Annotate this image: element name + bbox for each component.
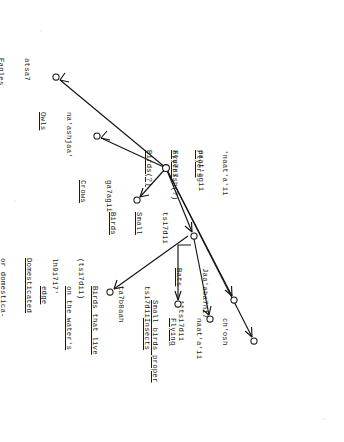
- paper-speck: [322, 418, 325, 420]
- domesticated-term-2: lh9i7i7': [50, 258, 59, 327]
- paper-speck: [40, 30, 42, 32]
- node-domesticated-birds[interactable]: (tsi7dii) lh9i7i7' Domesticated or domes…: [0, 258, 102, 327]
- diagram-stage: 'naat'a'ii Flyers naat'agii Flyers aya7a…: [0, 0, 344, 442]
- small-birds-gloss-1: Small: [134, 212, 143, 244]
- root-gloss-3: Birds(?): [144, 150, 153, 200]
- waters-edge-term-1: tsi7dii: [142, 286, 151, 355]
- node-small-birds[interactable]: tsi7dii Small Birds: [91, 212, 186, 244]
- root-term-2: naat'agii: [196, 150, 205, 191]
- domesticated-gloss-1: Domesticated: [25, 258, 34, 327]
- owls-term: na'ashjaa': [64, 112, 73, 158]
- node-crows[interactable]: ga7agii Crows: [61, 180, 130, 212]
- small-birds-gloss-2: Birds: [109, 212, 118, 244]
- eagles-gloss: Eagles: [0, 58, 5, 86]
- node-owls[interactable]: na'ashjaa' Owls: [21, 112, 90, 158]
- waters-edge-term-2: ta7b8aah: [116, 286, 125, 355]
- node-eagles[interactable]: atsa7 Eagles: [0, 58, 48, 86]
- eagles-term: atsa7: [22, 58, 31, 86]
- node-root-birds-alt2[interactable]: aya7a7sh(?) Birds(?): [127, 150, 196, 200]
- root-term-3: aya7a7sh(?): [170, 150, 179, 200]
- crows-gloss: Crows: [78, 180, 87, 212]
- diagram-canvas: 'naat'a'ii Flyers naat'agii Flyers aya7a…: [0, 0, 344, 442]
- paper-speck: [14, 200, 16, 202]
- domesticated-gloss-2: or domestica-: [0, 258, 7, 327]
- crows-term: ga7agii: [104, 180, 113, 212]
- domesticated-term-1: (tsi7dii): [76, 258, 85, 327]
- owls-gloss: Owls: [38, 112, 47, 158]
- flying-insects-term-1: ch'osh: [220, 318, 229, 359]
- small-birds-term: tsi7dii: [160, 212, 169, 244]
- small-birds-proper-term: **tsi7dii: [176, 300, 185, 383]
